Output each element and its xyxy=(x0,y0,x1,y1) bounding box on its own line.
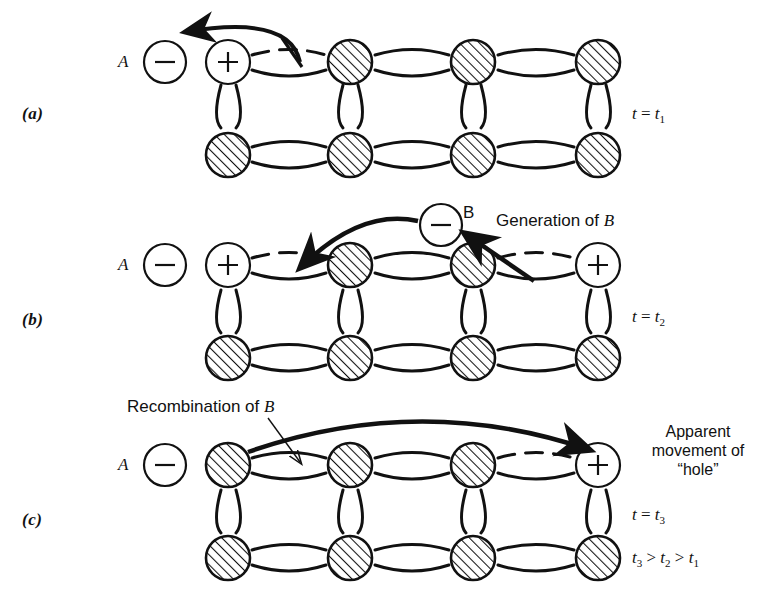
electron-a-label-panel-a: A xyxy=(118,52,128,72)
panel-c-bottom-atoms xyxy=(206,536,620,580)
panel-c-bottom-bonds xyxy=(252,545,574,572)
time-sub-t1: 1 xyxy=(660,113,666,125)
panel-c-vertical-bonds xyxy=(217,490,611,533)
generation-label-text: Generation of xyxy=(496,211,604,230)
hatched-atom xyxy=(451,536,495,580)
electron-a-label-panel-b: A xyxy=(118,255,128,275)
hatched-atom xyxy=(451,443,495,487)
panel-a-bottom-atoms xyxy=(206,133,620,177)
electron-b-label: B xyxy=(463,203,474,223)
panel-c-top-bonds xyxy=(252,453,574,480)
hatched-atom xyxy=(206,536,250,580)
panel-c-lattice xyxy=(144,418,620,580)
generation-label: Generation of B xyxy=(496,211,614,231)
hatched-atom xyxy=(328,243,372,287)
apparent-movement-label: Apparent movement of “hole” xyxy=(631,423,765,480)
time-var-t3: t xyxy=(632,505,637,524)
hatched-atom xyxy=(328,336,372,380)
recombination-label-text: Recombination of xyxy=(127,397,264,416)
time-eq-t1: = xyxy=(641,104,651,123)
panel-label-c: (c) xyxy=(22,510,42,530)
hatched-atom xyxy=(328,443,372,487)
time-label-t2: t = t2 xyxy=(632,307,665,328)
hatched-atom xyxy=(206,133,250,177)
hatched-atom xyxy=(206,443,250,487)
semiconductor-hole-movement-figure: (a) (b) (c) A A A B Generation of B Reco… xyxy=(0,0,771,599)
panel-label-a: (a) xyxy=(22,104,43,124)
recombination-label: Recombination of B xyxy=(127,397,274,417)
ineq-sub-a: 3 xyxy=(637,557,643,569)
apparent-movement-line3: “hole” xyxy=(631,461,765,480)
time-var-t2: t xyxy=(632,307,637,326)
time-inequality: t3 > t2 > t1 xyxy=(632,548,699,569)
apparent-hole-movement-arrow xyxy=(248,421,590,452)
recombination-label-italic-b: B xyxy=(264,397,274,416)
hatched-atom xyxy=(451,40,495,84)
hatched-atom xyxy=(576,133,620,177)
panel-b-bottom-atoms xyxy=(206,336,620,380)
ineq-sub-b: 2 xyxy=(665,557,671,569)
time-eq-t3: = xyxy=(641,505,651,524)
hatched-atom xyxy=(451,336,495,380)
hatched-atom xyxy=(206,336,250,380)
time-sub-t2: 2 xyxy=(660,316,666,328)
ineq-gt-2: > xyxy=(675,548,685,567)
ineq-gt-1: > xyxy=(646,548,656,567)
panel-label-b: (b) xyxy=(22,310,43,330)
panel-a-lattice xyxy=(144,27,620,177)
apparent-movement-line2: movement of xyxy=(631,442,765,461)
time-eq-t2: = xyxy=(641,307,651,326)
time-label-t1: t = t1 xyxy=(632,104,665,125)
hatched-atom xyxy=(328,536,372,580)
panel-a-bottom-bonds xyxy=(252,142,574,169)
panel-a-vertical-bonds xyxy=(217,85,611,128)
apparent-movement-line1: Apparent xyxy=(631,423,765,442)
hatched-atom xyxy=(576,336,620,380)
time-sub-t3: 3 xyxy=(660,514,666,526)
time-var-t1: t xyxy=(632,104,637,123)
hatched-atom xyxy=(328,133,372,177)
panel-b-bottom-bonds xyxy=(252,345,574,372)
electron-a-label-panel-c: A xyxy=(118,455,128,475)
time-label-t3: t = t3 xyxy=(632,505,665,526)
panel-b-vertical-bonds xyxy=(217,290,611,333)
hatched-atom xyxy=(328,40,372,84)
ineq-sub-c: 1 xyxy=(693,557,699,569)
hatched-atom xyxy=(576,40,620,84)
hatched-atom xyxy=(451,133,495,177)
hatched-atom xyxy=(576,536,620,580)
generation-label-italic-b: B xyxy=(604,211,614,230)
